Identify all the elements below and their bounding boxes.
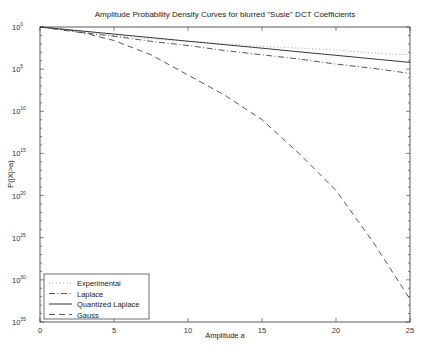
chart: Amplitude Probability Density Curves for… xyxy=(0,0,425,354)
x-tick-label: 10 xyxy=(184,326,192,335)
x-tick-label: 25 xyxy=(406,326,414,335)
x-tick-label: 15 xyxy=(258,326,266,335)
legend-label: Experimental xyxy=(77,279,121,288)
legend-label: Laplace xyxy=(77,290,103,299)
y-tick-label: 1010 xyxy=(12,105,26,116)
y-tick-label: 105 xyxy=(12,63,23,74)
y-tick-label: 1020 xyxy=(12,190,26,201)
y-axis-label: P(|X|>a) xyxy=(6,160,15,188)
y-tick-label: 100 xyxy=(12,21,23,32)
x-tick-label: 5 xyxy=(112,326,116,335)
x-tick-label: 0 xyxy=(38,326,42,335)
y-tick-label: 1035 xyxy=(12,316,26,327)
y-tick-label: 1015 xyxy=(12,147,26,158)
y-tick-label: 1025 xyxy=(12,232,26,243)
x-tick-label: 20 xyxy=(332,326,340,335)
legend: ExperimentalLaplaceQuantized LaplaceGaus… xyxy=(44,274,149,320)
legend-label: Quantized Laplace xyxy=(77,300,140,309)
x-axis-label: Amplitude a xyxy=(205,331,245,340)
legend-label: Gauss xyxy=(77,311,99,320)
y-tick-label: 1030 xyxy=(12,274,26,285)
chart-title: Amplitude Probability Density Curves for… xyxy=(95,10,356,19)
